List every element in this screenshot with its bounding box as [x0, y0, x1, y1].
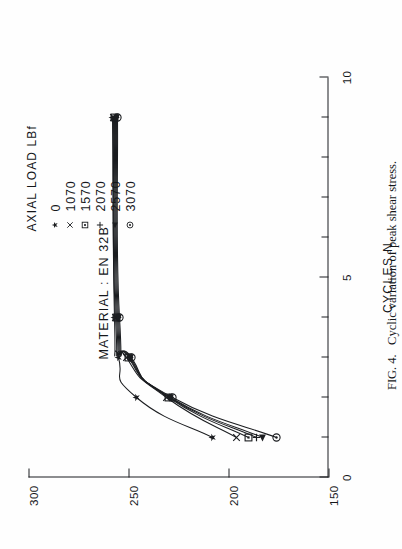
figure-caption: FIG. 4. Cyclic variation of peak shear s…: [384, 160, 399, 389]
legend-label: 2570: [108, 180, 122, 211]
filled-star-marker: [208, 433, 215, 441]
y-tick-label: 150: [327, 485, 339, 519]
legend-title: AXIAL LOAD LBf: [24, 125, 38, 231]
figure-body: 0510 150200250300 CYCLES N PEAK SHEAR ST…: [0, 0, 402, 549]
y-tick-label: 250: [127, 485, 139, 519]
legend-symbol: [123, 218, 136, 231]
legend-symbol: [78, 218, 91, 231]
legend-entry: 1570: [77, 125, 92, 231]
cross-marker: [67, 222, 72, 227]
legend-symbol: [108, 218, 121, 231]
square-marker: [245, 434, 252, 441]
legend-entries: 010701570207025703070: [47, 125, 137, 231]
material-annotation: MATERIAL : EN 32B: [96, 226, 110, 359]
caption-text: Cyclic variation of peak shear stress.: [384, 160, 398, 344]
legend-symbol: [63, 218, 76, 231]
legend-label: 2070: [93, 180, 107, 211]
legend-entry: 1070: [62, 125, 77, 231]
figure-page: 0510 150200250300 CYCLES N PEAK SHEAR ST…: [0, 0, 402, 549]
circle-dot-marker: [127, 222, 133, 228]
filled-star-marker: [51, 221, 57, 227]
legend-symbol: [93, 218, 106, 231]
legend-entry: 3070: [122, 125, 137, 231]
plus-marker: [96, 221, 102, 227]
circle-dot-marker: [272, 433, 279, 440]
rotated-figure-wrapper: 0510 150200250300 CYCLES N PEAK SHEAR ST…: [0, 0, 402, 549]
legend-label: 0: [48, 203, 62, 211]
x-tick-label: 5: [340, 274, 352, 281]
legend-label: 3070: [123, 180, 137, 211]
legend-label: 1070: [63, 180, 77, 211]
legend-symbol: [48, 218, 61, 231]
legend-label: 1570: [78, 180, 92, 211]
series-line: [117, 117, 276, 437]
cross-marker: [233, 434, 240, 441]
x-tick-label: 0: [340, 474, 352, 481]
filled-triangle-left-marker: [112, 222, 118, 228]
y-tick-label: 300: [27, 485, 39, 519]
y-tick-label: 200: [227, 485, 239, 519]
x-tick-label: 10: [340, 70, 352, 84]
legend-entry: 2070: [92, 125, 107, 231]
caption-label: FIG. 4.: [384, 354, 398, 390]
square-marker: [82, 222, 88, 228]
series-line: [116, 117, 262, 437]
legend: AXIAL LOAD LBf 010701570207025703070: [24, 125, 137, 231]
legend-entry: 2570: [107, 125, 122, 231]
legend-entry: 0: [47, 125, 62, 231]
